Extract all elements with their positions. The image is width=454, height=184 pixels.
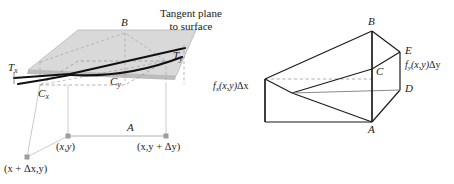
xy-plane-left-edge [27,136,68,157]
prism-panel: B E C D A fx(x,y)Δx fy(x,y)Δy [227,0,454,184]
edge-d-to-a [372,90,400,122]
dot-xy [66,134,71,139]
figure-root: Tangent plane to surface B Tx Ty Cx Cy A… [0,0,454,184]
tangent-plane-surface [28,30,196,76]
caption-line-1: Tangent plane [160,7,222,20]
edge-c-level [292,90,400,93]
inner-slant-to-a [292,93,372,122]
prism-drawing [227,0,454,184]
caption-line-2: to surface [160,20,222,33]
edge-backleft-to-b [265,31,372,79]
inner-slant-left [265,79,292,93]
projection-x-plus-dx [27,85,40,157]
tangent-plane-caption: Tangent plane to surface [160,7,222,33]
dot-x-plus-dx-y [25,155,30,160]
edge-c-to-d [372,52,400,69]
inner-slant-to-c [292,69,372,93]
tangent-plane-panel: Tangent plane to surface B Tx Ty Cx Cy A… [0,0,227,184]
prism-top-face [265,58,399,79]
edge-b-to-e [372,31,400,52]
dot-xy-plus-dy [164,134,169,139]
